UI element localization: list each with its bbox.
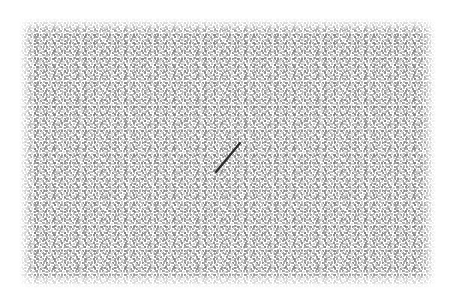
drawing-canvas[interactable] <box>0 0 456 305</box>
ink-stroke-layer[interactable] <box>0 0 456 305</box>
diagonal-stroke[interactable] <box>216 143 240 172</box>
